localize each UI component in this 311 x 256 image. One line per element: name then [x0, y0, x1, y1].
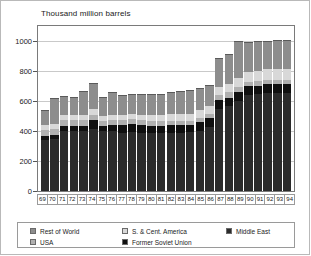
y-axis-tick-label: 200	[19, 157, 32, 166]
bar-segment	[186, 114, 195, 121]
bar-column[interactable]	[79, 26, 88, 191]
bar-segment	[263, 84, 272, 93]
x-axis-tick-label: 81	[157, 195, 167, 204]
bar-segment	[215, 109, 224, 191]
legend-item[interactable]: USA	[30, 239, 53, 246]
bar-segment	[215, 87, 224, 95]
bar-segment	[186, 90, 195, 113]
bar-column[interactable]	[128, 26, 137, 191]
bar-column[interactable]	[167, 26, 176, 191]
legend-row: Rest of WorldS. & Cent. AmericaMiddle Ea…	[24, 226, 288, 236]
bar-segment	[244, 86, 253, 95]
bar-column[interactable]	[283, 26, 292, 191]
x-axis-tick-label: 84	[186, 195, 196, 204]
x-axis-tick-label: 77	[117, 195, 127, 204]
legend-item[interactable]: S. & Cent. America	[122, 228, 187, 235]
bar-column[interactable]	[263, 26, 272, 191]
y-axis-tick-label: 0	[28, 187, 32, 196]
bar-segment	[60, 131, 69, 191]
bar-column[interactable]	[234, 26, 243, 191]
bar-column[interactable]	[157, 26, 166, 191]
bar-segment	[41, 110, 50, 125]
bar-segment	[167, 133, 176, 192]
bar-segment	[176, 114, 185, 121]
bar-segment	[108, 92, 117, 115]
chart-frame: Thousand million barrels 020040060080010…	[0, 0, 310, 255]
bar-column[interactable]	[99, 26, 108, 191]
y-axis-tick-label: 1000	[15, 37, 32, 46]
x-axis-tick-label: 73	[78, 195, 88, 204]
bar-segment	[196, 122, 205, 131]
bar-column[interactable]	[215, 26, 224, 191]
bar-segment	[41, 140, 50, 191]
bar-segment	[128, 94, 137, 114]
bar-segment	[254, 41, 263, 70]
bar-segment	[108, 131, 117, 191]
bar-column[interactable]	[137, 26, 146, 191]
bar-segment	[205, 85, 214, 106]
bar-column[interactable]	[89, 26, 98, 191]
x-axis-tick-label: 80	[147, 195, 157, 204]
y-axis-tick-label: 800	[19, 67, 32, 76]
legend-label: Former Soviet Union	[132, 239, 192, 246]
bar-segment	[225, 98, 234, 107]
bar-segment	[225, 54, 234, 84]
legend-item[interactable]: Middle East	[226, 228, 270, 235]
bar-column[interactable]	[254, 26, 263, 191]
bar-column[interactable]	[244, 26, 253, 191]
bar-column[interactable]	[273, 26, 282, 191]
bar-segment	[205, 106, 214, 114]
x-axis-tick-label: 82	[167, 195, 177, 204]
bar-column[interactable]	[41, 26, 50, 191]
bar-segment	[273, 40, 282, 69]
bar-column[interactable]	[118, 26, 127, 191]
bar-column[interactable]	[147, 26, 156, 191]
bar-column[interactable]	[205, 26, 214, 191]
legend-item[interactable]: Former Soviet Union	[122, 239, 192, 246]
x-axis-tick-label: 74	[87, 195, 97, 204]
legend-label: Middle East	[236, 228, 270, 235]
bar-segment	[137, 133, 146, 192]
legend-item[interactable]: Rest of World	[30, 228, 79, 235]
bar-segment	[79, 91, 88, 115]
bar-segment	[283, 84, 292, 93]
bar-segment	[196, 131, 205, 191]
x-axis-tick-label: 91	[256, 195, 266, 204]
legend-label: S. & Cent. America	[132, 228, 187, 235]
legend-row: USAFormer Soviet Union	[24, 237, 288, 247]
bar-segment	[176, 91, 185, 114]
bar-column[interactable]	[70, 26, 79, 191]
bar-column[interactable]	[225, 26, 234, 191]
bar-column[interactable]	[108, 26, 117, 191]
bar-segment	[128, 132, 137, 191]
bar-column[interactable]	[176, 26, 185, 191]
bar-segment	[118, 95, 127, 115]
bar-segment	[89, 83, 98, 109]
bar-segment	[263, 69, 272, 80]
bar-segment	[244, 95, 253, 191]
bar-segment	[215, 58, 224, 87]
y-axis-tick-label: 600	[19, 97, 32, 106]
x-axis-tick-label: 75	[97, 195, 107, 204]
bar-segment	[215, 100, 224, 109]
bar-segment	[99, 131, 108, 191]
legend-swatch-icon	[122, 239, 128, 245]
x-axis-tick-label: 92	[265, 195, 275, 204]
bar-segment	[283, 40, 292, 69]
y-axis-tick-label: 400	[19, 127, 32, 136]
bar-column[interactable]	[186, 26, 195, 191]
bar-column[interactable]	[50, 26, 59, 191]
bar-segment	[89, 120, 98, 129]
bar-segment	[234, 41, 243, 78]
bar-segment	[137, 94, 146, 115]
legend-swatch-icon	[30, 228, 36, 234]
bar-segment	[273, 84, 282, 93]
bar-segment	[128, 124, 137, 132]
bar-segment	[157, 126, 166, 134]
legend-swatch-icon	[226, 228, 232, 234]
x-axis-tick-label: 94	[285, 195, 294, 204]
bar-segment	[196, 110, 205, 117]
bar-column[interactable]	[196, 26, 205, 191]
x-axis-labels: 6970717273747576777879808182838485868788…	[37, 194, 295, 205]
bar-column[interactable]	[60, 26, 69, 191]
